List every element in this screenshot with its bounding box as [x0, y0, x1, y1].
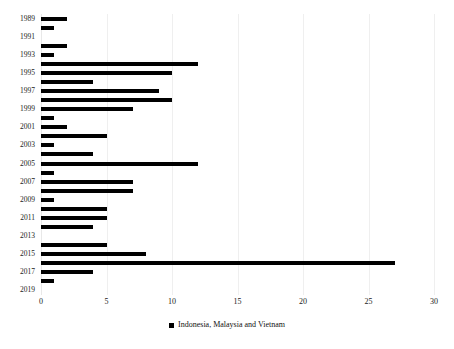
x-tick-label-25: 25 — [365, 297, 373, 306]
y-tick-label-1999: 1999 — [20, 105, 35, 113]
bar — [41, 89, 159, 93]
bar — [41, 143, 54, 147]
x-tick-label-20: 20 — [299, 297, 307, 306]
bar — [41, 252, 146, 256]
y-tick-label-1995: 1995 — [20, 69, 35, 77]
x-tick-label-0: 0 — [39, 297, 43, 306]
bar-row — [41, 232, 434, 241]
bar-row — [41, 14, 434, 23]
y-tick-label-1989: 1989 — [20, 15, 35, 23]
bar-row — [41, 168, 434, 177]
bar — [41, 162, 198, 166]
bar — [41, 107, 133, 111]
bar-row — [41, 159, 434, 168]
bar — [41, 134, 107, 138]
bar-row — [41, 241, 434, 250]
gridline-30 — [434, 14, 435, 295]
legend-square-marker-icon — [169, 323, 174, 328]
bar-row — [41, 204, 434, 213]
y-tick-label-2003: 2003 — [20, 141, 35, 149]
legend-item-label: Indonesia, Malaysia and Vietnam — [178, 320, 285, 330]
bar — [41, 216, 107, 220]
bar-row — [41, 50, 434, 59]
x-axis: 051015202530 — [41, 295, 434, 311]
bar-row — [41, 213, 434, 222]
bar-row — [41, 32, 434, 41]
bar — [41, 243, 107, 247]
bar-row — [41, 259, 434, 268]
y-tick-label-2019: 2019 — [20, 286, 35, 294]
bar-row — [41, 186, 434, 195]
y-tick-label-1991: 1991 — [20, 33, 35, 41]
bar — [41, 189, 133, 193]
bar-series-indonesia-malaysia-and-vietnam — [41, 14, 434, 295]
chart-legend: Indonesia, Malaysia and Vietnam — [0, 320, 454, 330]
bar-row — [41, 87, 434, 96]
bar — [41, 152, 93, 156]
bar-row — [41, 268, 434, 277]
x-tick-label-10: 10 — [168, 297, 176, 306]
bar-row — [41, 77, 434, 86]
bar-row — [41, 250, 434, 259]
bar-row — [41, 105, 434, 114]
bar-row — [41, 141, 434, 150]
y-axis: 1989199119931995199719992001200320052007… — [0, 14, 40, 295]
y-tick-label-2009: 2009 — [20, 196, 35, 204]
bar — [41, 125, 67, 129]
bar — [41, 26, 54, 30]
bar — [41, 261, 395, 265]
bar-row — [41, 41, 434, 50]
y-tick-label-2017: 2017 — [20, 268, 35, 276]
bar-row — [41, 23, 434, 32]
y-tick-label-2005: 2005 — [20, 160, 35, 168]
bar-row — [41, 286, 434, 295]
bar-chart: 1989199119931995199719992001200320052007… — [0, 0, 454, 349]
bar — [41, 53, 54, 57]
bar-row — [41, 277, 434, 286]
bar-row — [41, 96, 434, 105]
bar-row — [41, 114, 434, 123]
bar — [41, 198, 54, 202]
bar — [41, 44, 67, 48]
bar — [41, 17, 67, 21]
bar-row — [41, 177, 434, 186]
y-tick-label-2015: 2015 — [20, 250, 35, 258]
bar — [41, 225, 93, 229]
y-tick-label-2001: 2001 — [20, 123, 35, 131]
y-tick-label-2007: 2007 — [20, 178, 35, 186]
y-tick-label-1997: 1997 — [20, 87, 35, 95]
bar-row — [41, 132, 434, 141]
x-tick-label-5: 5 — [105, 297, 109, 306]
y-tick-label-1993: 1993 — [20, 51, 35, 59]
plot-area — [41, 14, 434, 295]
bar — [41, 116, 54, 120]
bar — [41, 207, 107, 211]
bar — [41, 80, 93, 84]
bar-row — [41, 222, 434, 231]
bar — [41, 71, 172, 75]
x-tick-label-30: 30 — [430, 297, 438, 306]
y-tick-label-2013: 2013 — [20, 232, 35, 240]
bar-row — [41, 59, 434, 68]
x-tick-label-15: 15 — [234, 297, 242, 306]
bar-row — [41, 150, 434, 159]
bar-row — [41, 195, 434, 204]
bar — [41, 279, 54, 283]
bar — [41, 180, 133, 184]
bar-row — [41, 123, 434, 132]
bar — [41, 98, 172, 102]
bar — [41, 171, 54, 175]
bar — [41, 270, 93, 274]
bar-row — [41, 68, 434, 77]
y-tick-label-2011: 2011 — [20, 214, 35, 222]
bar — [41, 62, 198, 66]
